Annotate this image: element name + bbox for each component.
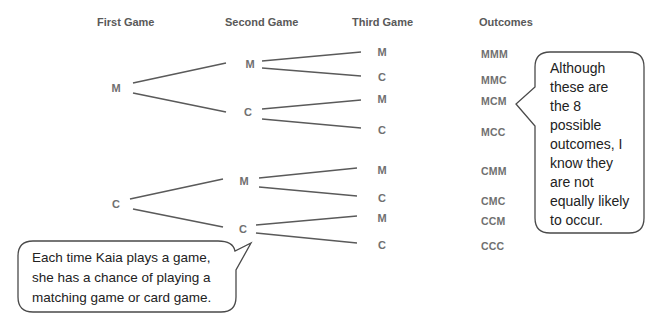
outcome-label: MCC <box>481 126 506 138</box>
callout-line: outcomes, I <box>550 135 629 154</box>
branch-line <box>259 168 357 178</box>
callout-line: equally likely <box>550 192 629 211</box>
node-first-c: C <box>112 198 120 210</box>
node-third: M <box>377 93 386 105</box>
branch-line <box>130 179 223 199</box>
callout-line: the 8 <box>550 97 629 116</box>
outcome-label: MMM <box>481 48 508 60</box>
callout-right-text: Although these are the 8 possible outcom… <box>550 59 629 230</box>
node-third: M <box>377 46 386 58</box>
callout-line: these are <box>550 78 629 97</box>
node-second-mm: M <box>245 58 254 70</box>
callout-line: to occur. <box>550 211 629 230</box>
branch-line <box>133 63 226 83</box>
node-second-cc: C <box>239 223 247 235</box>
node-third: M <box>377 212 386 224</box>
callout-line: possible <box>550 116 629 135</box>
callout-line: know they <box>550 154 629 173</box>
branch-line <box>256 216 357 225</box>
branch-line <box>262 100 361 109</box>
branch-line <box>259 187 357 196</box>
node-third: C <box>378 192 386 204</box>
branch-line <box>256 233 357 243</box>
outcome-label: CCM <box>481 215 506 227</box>
callout-line: Although <box>550 59 629 78</box>
node-first-m: M <box>111 82 120 94</box>
outcome-label: CMC <box>481 195 506 207</box>
outcome-label: CCC <box>481 240 504 252</box>
branch-line <box>133 209 223 227</box>
branch-line <box>262 52 361 61</box>
node-third: C <box>378 124 386 136</box>
outcome-label: MMC <box>481 74 507 86</box>
outcome-label: MCM <box>481 95 507 107</box>
node-third: C <box>378 71 386 83</box>
callout-line: are not <box>550 173 629 192</box>
node-third: M <box>377 164 386 176</box>
callout-line: Each time Kaia plays a game, <box>32 248 211 268</box>
callout-line: matching game or card game. <box>32 288 211 308</box>
node-third: C <box>378 239 386 251</box>
callout-left-text: Each time Kaia plays a game, she has a c… <box>32 248 211 308</box>
branch-line <box>262 119 361 128</box>
node-second-cm: M <box>239 175 248 187</box>
branch-line <box>133 93 226 112</box>
outcome-label: CMM <box>481 165 507 177</box>
branch-line <box>262 68 361 76</box>
callout-line: she has a chance of playing a <box>32 268 211 288</box>
node-second-mc: C <box>244 106 252 118</box>
